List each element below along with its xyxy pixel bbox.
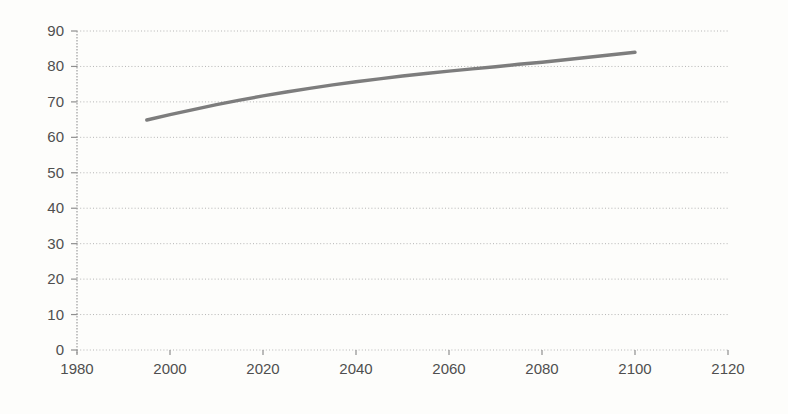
y-axis-tick-label: 80 — [47, 57, 64, 74]
chart-canvas: 0102030405060708090198020002020204020602… — [0, 0, 788, 414]
x-axis-tick-label: 2100 — [618, 360, 651, 377]
x-axis-tick-label: 1980 — [60, 360, 93, 377]
y-axis-tick-label: 90 — [47, 22, 64, 39]
x-axis-tick-label: 2000 — [153, 360, 186, 377]
y-axis-tick-label: 0 — [56, 341, 64, 358]
y-axis-tick-label: 20 — [47, 270, 64, 287]
y-axis-tick-label: 10 — [47, 306, 64, 323]
y-axis-tick-label: 60 — [47, 128, 64, 145]
y-axis-tick-label: 70 — [47, 93, 64, 110]
x-axis-tick-label: 2120 — [711, 360, 744, 377]
x-axis-tick-label: 2060 — [432, 360, 465, 377]
y-axis-tick-label: 40 — [47, 199, 64, 216]
line-chart: 0102030405060708090198020002020204020602… — [0, 0, 788, 414]
y-axis-tick-label: 50 — [47, 164, 64, 181]
y-axis-tick-label: 30 — [47, 235, 64, 252]
x-axis-tick-label: 2080 — [525, 360, 558, 377]
chart-background — [0, 0, 788, 414]
x-axis-tick-label: 2040 — [339, 360, 372, 377]
x-axis-tick-label: 2020 — [246, 360, 279, 377]
